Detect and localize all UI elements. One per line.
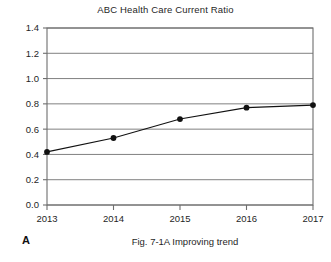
y-tick-label: 1.2 [26, 48, 39, 59]
panel-label: A [22, 234, 30, 246]
y-axis-tick-labels: 0.00.20.40.60.81.01.21.4 [26, 22, 39, 210]
x-axis-ticks [47, 205, 313, 210]
x-tick-label: 2013 [36, 213, 57, 224]
data-point-marker [44, 149, 50, 155]
figure-panel: ABC Health Care Current Ratio 0.00.20.40… [0, 0, 331, 262]
data-point-marker [244, 105, 250, 111]
data-point-marker [177, 116, 183, 122]
data-point-marker [111, 135, 117, 141]
figure-caption: Fig. 7-1A Improving trend [55, 236, 315, 247]
y-tick-label: 1.0 [26, 73, 39, 84]
y-tick-label: 0.4 [26, 149, 39, 160]
y-tick-label: 0.8 [26, 98, 39, 109]
caption-row: A Fig. 7-1A Improving trend [0, 234, 331, 254]
x-tick-label: 2016 [236, 213, 257, 224]
x-tick-label: 2017 [302, 213, 323, 224]
x-tick-label: 2015 [169, 213, 190, 224]
line-chart-plot: 0.00.20.40.60.81.01.21.4 201320142015201… [0, 0, 331, 234]
data-point-marker [310, 102, 316, 108]
y-tick-label: 0.6 [26, 124, 39, 135]
y-axis-ticks [43, 28, 47, 205]
y-tick-label: 1.4 [26, 22, 39, 33]
y-tick-label: 0.2 [26, 174, 39, 185]
y-tick-label: 0.0 [26, 199, 39, 210]
x-tick-label: 2014 [103, 213, 124, 224]
x-axis-tick-labels: 20132014201520162017 [36, 213, 323, 224]
